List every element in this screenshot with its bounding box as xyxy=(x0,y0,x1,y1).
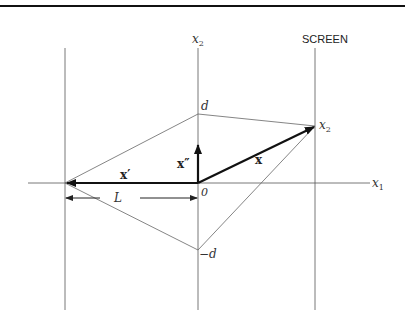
screen-point-label: x2 xyxy=(319,118,331,134)
line-source-to-minus-d xyxy=(65,183,198,250)
origin-label: 0 xyxy=(201,186,208,199)
d-label: d xyxy=(201,99,209,113)
minus-d-label: −d xyxy=(199,247,217,261)
x2-axis-label: x2 xyxy=(192,32,204,48)
line-minus-d-to-screen xyxy=(198,126,315,250)
vector-x-prime-label: x′ xyxy=(120,168,130,182)
screen-label: SCREEN xyxy=(302,33,348,45)
diagram-canvas: SCREEN x2 x1 x2 d −d 0 x x′ x″ L xyxy=(0,0,405,329)
vector-x-double-prime-label: x″ xyxy=(177,157,190,171)
L-label: L xyxy=(113,191,122,205)
line-source-to-d xyxy=(65,114,198,183)
diagram-svg: SCREEN x2 x1 x2 d −d 0 x x′ x″ L xyxy=(0,0,405,329)
x1-axis-label: x1 xyxy=(372,176,384,192)
line-d-to-screen xyxy=(198,114,315,126)
vector-x-label: x xyxy=(255,153,263,167)
